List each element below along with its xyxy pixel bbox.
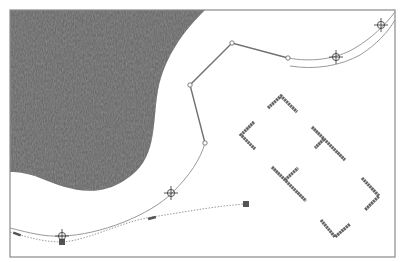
dotted-bezier-curve[interactable] [10, 204, 246, 242]
crosshair-icon[interactable] [329, 50, 343, 64]
bezier-control-handles[interactable] [13, 201, 249, 245]
bracket-markers[interactable] [241, 96, 379, 237]
route-upper-curve[interactable] [288, 12, 395, 60]
route-lower-curve[interactable] [290, 20, 395, 68]
bracket-bottom[interactable] [321, 220, 350, 237]
anchor-square-handle[interactable] [243, 201, 249, 207]
vertex-handle[interactable] [203, 141, 207, 145]
vertex-handle[interactable] [188, 83, 192, 87]
vertex-handle[interactable] [286, 56, 290, 60]
bracket-left[interactable] [241, 122, 255, 149]
diagram-svg [0, 0, 409, 262]
diagram-canvas [0, 0, 409, 262]
control-dash-handle[interactable] [148, 216, 156, 221]
bracket-t-lower[interactable] [272, 167, 306, 201]
bracket-right[interactable] [362, 178, 379, 210]
terrain-texture [10, 10, 205, 191]
bracket-top[interactable] [268, 96, 297, 112]
crosshair-icon[interactable] [374, 18, 388, 32]
bracket-t-upper[interactable] [312, 127, 345, 160]
polyline-path[interactable] [190, 43, 288, 143]
crosshair-icon[interactable] [55, 229, 69, 243]
vertex-handle[interactable] [230, 41, 234, 45]
polyline-vertex-handles[interactable] [188, 41, 290, 145]
control-dash-handle[interactable] [13, 231, 21, 236]
